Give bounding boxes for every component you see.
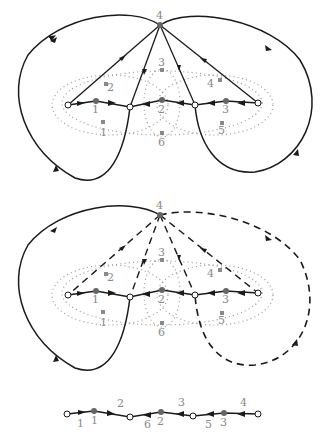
right-outer-loop xyxy=(160,16,312,172)
bottom-chain: 1 2 6 3 5 4 1 2 3 xyxy=(64,396,261,431)
inner-label: 3 xyxy=(222,293,229,306)
apex-label: 4 xyxy=(156,199,163,212)
inner-label: 1 xyxy=(92,103,99,116)
white-node xyxy=(127,104,133,110)
edge-label: 2 xyxy=(117,397,124,410)
top-diagram: 4 1 2 3 1 2 3 4 5 6 xyxy=(19,9,313,180)
star-label: 5 xyxy=(218,314,225,327)
apex-label: 4 xyxy=(156,9,163,22)
star-label: 4 xyxy=(207,267,214,280)
star-label: 6 xyxy=(158,326,165,339)
star-label: 3 xyxy=(158,246,165,259)
edge-label: 4 xyxy=(240,396,247,409)
edge-label: 5 xyxy=(205,418,212,431)
star-label: 2 xyxy=(107,271,114,284)
star-label: 3 xyxy=(158,56,165,69)
star-label: 6 xyxy=(158,136,165,149)
edge-label: 1 xyxy=(77,417,84,430)
apex-node xyxy=(157,22,163,28)
star-label: 1 xyxy=(100,316,107,329)
edge-label: 6 xyxy=(144,418,151,431)
node-label: 3 xyxy=(220,416,227,429)
star-label: 4 xyxy=(207,77,214,90)
left-outer-loop xyxy=(19,15,160,180)
inner-label: 1 xyxy=(92,293,99,306)
white-node xyxy=(192,102,198,108)
white-node xyxy=(255,100,261,106)
inner-label: 3 xyxy=(222,103,229,116)
diagram-canvas: 4 1 2 3 1 2 3 4 5 6 xyxy=(0,0,325,442)
inner-label: 2 xyxy=(158,293,165,306)
inner-label: 2 xyxy=(158,103,165,116)
star-label: 5 xyxy=(218,124,225,137)
node-label: 1 xyxy=(91,414,98,427)
node-label: 2 xyxy=(157,415,164,428)
white-node xyxy=(65,102,71,108)
star-label: 2 xyxy=(107,81,114,94)
star-label: 1 xyxy=(100,126,107,139)
edge-label: 3 xyxy=(178,396,185,409)
middle-diagram: 4 1 2 3 1 2 3 4 5 6 xyxy=(19,199,310,370)
